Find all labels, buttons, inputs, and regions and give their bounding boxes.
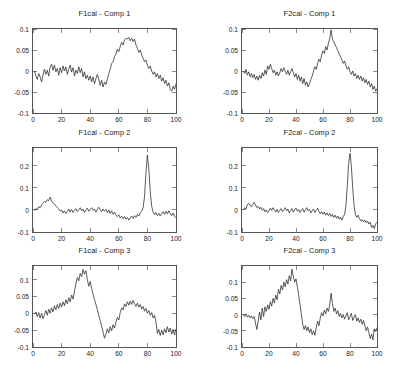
figure-grid: F1cal - Comp 1-0.1-0.0500.050.1020406080… — [0, 0, 394, 369]
x-axis-tick-label: 60 — [308, 350, 338, 357]
chart-panel-f2cal-comp-3: F2cal - Comp 3-0.1-0.0500.050.1020406080… — [0, 0, 394, 369]
x-axis-tick-label: 40 — [281, 350, 311, 357]
x-axis-tick-label: 100 — [362, 350, 392, 357]
y-axis-tick-label: 0.1 — [207, 279, 238, 286]
data-series-line — [243, 269, 377, 340]
x-axis-tick-label: 20 — [254, 350, 284, 357]
chart-title: F2cal - Comp 3 — [211, 246, 394, 255]
y-axis-tick-label: 0 — [207, 311, 238, 318]
x-axis-tick-label: 80 — [335, 350, 365, 357]
x-axis-tick-label: 0 — [227, 350, 257, 357]
y-axis-tick-label: -0.05 — [207, 327, 238, 334]
y-axis-tick-label: 0.05 — [207, 295, 238, 302]
plot-area — [241, 265, 378, 348]
